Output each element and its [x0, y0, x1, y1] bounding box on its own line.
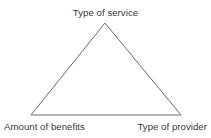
label-type-of-provider: Type of provider	[137, 121, 207, 132]
label-type-of-service: Type of service	[0, 7, 211, 18]
triangle-outline-shape	[0, 0, 211, 138]
triangle-polygon	[31, 23, 181, 115]
label-amount-of-benefits: Amount of benefits	[4, 121, 85, 132]
triangle-diagram: Type of service Amount of benefits Type …	[0, 0, 211, 138]
